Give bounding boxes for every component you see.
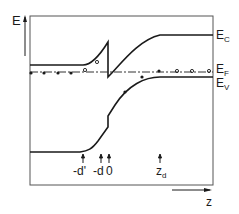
marker-label-zero: 0 bbox=[106, 165, 113, 177]
energy-axis-arrow bbox=[23, 15, 27, 56]
ev-label-sub: V bbox=[224, 83, 229, 92]
ec-label-main: E bbox=[216, 28, 224, 42]
ef-label-main: E bbox=[216, 62, 224, 76]
ev-label-main: E bbox=[216, 76, 224, 90]
marker-label-minus-d: -d bbox=[93, 165, 104, 177]
band-diagram bbox=[0, 0, 239, 214]
plot-frame bbox=[30, 16, 213, 185]
ev-label: EV bbox=[216, 77, 229, 94]
marker-label-minus-d-prime: -d' bbox=[73, 165, 86, 177]
hole-circles bbox=[83, 60, 210, 72]
valence-band-curve bbox=[30, 77, 213, 152]
zd-label-sub: d bbox=[162, 171, 166, 180]
z-axis-label: z bbox=[206, 196, 212, 208]
ec-label: EC bbox=[216, 29, 230, 46]
conduction-band-curve bbox=[30, 35, 213, 77]
energy-axis-label: E bbox=[12, 15, 21, 27]
z-axis-arrow bbox=[172, 188, 212, 192]
ec-label-sub: C bbox=[224, 35, 230, 44]
marker-label-zd: zd bbox=[156, 165, 166, 182]
position-marker-arrows bbox=[82, 154, 162, 163]
